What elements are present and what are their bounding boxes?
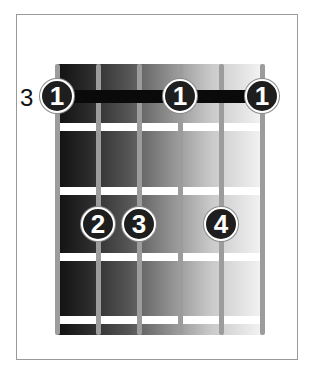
string-3: [137, 64, 142, 335]
fretboard: [57, 64, 262, 335]
fret-3: [60, 253, 260, 261]
fret-1: [60, 123, 260, 131]
fret-2: [60, 187, 260, 195]
barre: [57, 90, 262, 103]
finger-dot: 1: [245, 79, 279, 113]
fret-4: [60, 316, 260, 324]
finger-dot: 1: [40, 79, 74, 113]
string-5: [219, 64, 224, 335]
finger-dot: 4: [204, 207, 238, 241]
string-2: [96, 64, 101, 335]
finger-dot: 2: [81, 207, 115, 241]
start-fret-label: 3: [20, 84, 33, 112]
finger-dot: 1: [163, 79, 197, 113]
finger-dot: 3: [122, 207, 156, 241]
